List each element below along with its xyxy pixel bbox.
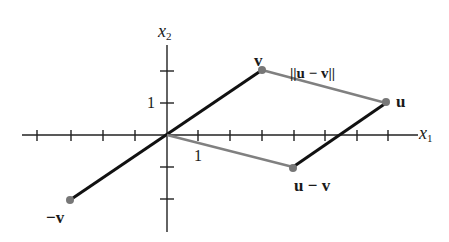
point-u-minus-v — [289, 164, 297, 172]
label-distance: ||u − v|| — [290, 66, 335, 81]
label-v: v — [254, 52, 263, 69]
point-neg-v — [66, 196, 74, 204]
label-u: u — [396, 93, 405, 110]
x-axis-label: x1 — [419, 124, 433, 144]
point-u — [382, 98, 390, 106]
y-axis-label: x2 — [158, 22, 172, 42]
vector-diagram: x2 x1 1 1 v u ||u − v|| u − v −v — [0, 0, 449, 242]
y-tick-label-1: 1 — [147, 95, 155, 111]
label-neg-v: −v — [46, 209, 64, 226]
x-tick-label-1: 1 — [194, 148, 202, 164]
label-u-minus-v: u − v — [294, 177, 330, 194]
x-axis — [22, 130, 418, 141]
diagram-canvas — [0, 0, 449, 242]
